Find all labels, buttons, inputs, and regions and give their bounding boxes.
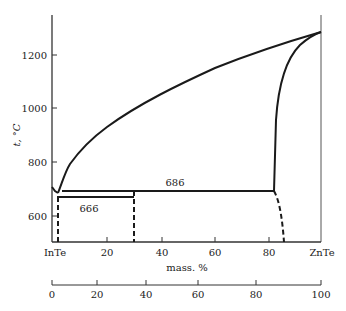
y-tick-label: 1200 bbox=[22, 50, 47, 61]
solidus-curve bbox=[274, 32, 321, 191]
secondary-tick-label: 80 bbox=[250, 289, 263, 300]
secondary-tick-label: 60 bbox=[192, 289, 205, 300]
phase-curves bbox=[52, 32, 321, 197]
x-tick-label: 40 bbox=[156, 247, 169, 258]
x-tick-label-inte: InTe bbox=[44, 247, 66, 258]
y-tick-label: 800 bbox=[28, 157, 47, 168]
secondary-tick-label: 40 bbox=[140, 289, 153, 300]
x-axis-label: mass. % bbox=[166, 262, 208, 273]
secondary-tick-label: 100 bbox=[311, 289, 330, 300]
y-axis-label: t, °C bbox=[11, 123, 22, 146]
x-ticks bbox=[107, 237, 269, 242]
secondary-tick-label: 0 bbox=[49, 289, 55, 300]
x-tick-label: 20 bbox=[101, 247, 114, 258]
y-tick-label: 1000 bbox=[22, 103, 47, 114]
dashed-boundaries bbox=[58, 191, 284, 242]
x-tick-label-znte: ZnTe bbox=[309, 247, 334, 258]
annotation-666: 666 bbox=[79, 203, 98, 214]
x-tick-label: 60 bbox=[209, 247, 222, 258]
inte-liquidus-branch bbox=[52, 187, 58, 193]
annotation-686: 686 bbox=[165, 177, 184, 188]
liquidus-curve bbox=[58, 32, 321, 193]
secondary-x-ticks bbox=[52, 280, 321, 285]
secondary-tick-label: 20 bbox=[91, 289, 104, 300]
y-tick-label: 600 bbox=[28, 211, 47, 222]
phase-diagram: 1200 1000 800 600 t, °C InTe 20 40 60 80… bbox=[0, 0, 346, 311]
x-tick-label: 80 bbox=[263, 247, 276, 258]
